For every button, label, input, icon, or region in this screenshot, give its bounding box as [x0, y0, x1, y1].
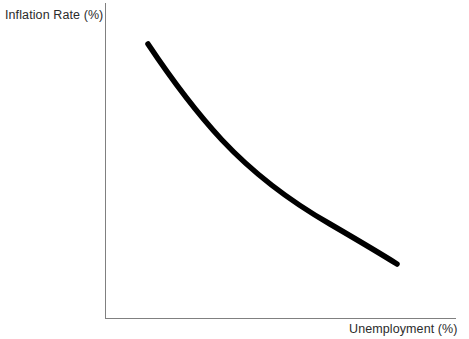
x-axis-label: Unemployment (%)	[349, 323, 458, 337]
chart-canvas	[0, 0, 469, 339]
phillips-curve-figure: Inflation Rate (%) Unemployment (%)	[0, 0, 469, 339]
phillips-curve-line	[148, 44, 397, 264]
y-axis-label: Inflation Rate (%)	[5, 9, 103, 23]
